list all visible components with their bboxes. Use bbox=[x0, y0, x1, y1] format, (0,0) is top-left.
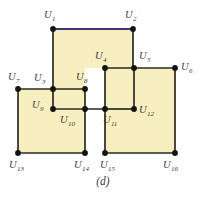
vertex-label-base: U bbox=[100, 159, 108, 170]
vertex-label-base: U bbox=[125, 9, 133, 20]
vertex-label-u8: U8 bbox=[76, 72, 87, 83]
vertex-label-base: U bbox=[95, 50, 103, 61]
vertex-dot-u8 bbox=[82, 86, 88, 92]
vertex-label-subscript: 2 bbox=[133, 15, 137, 23]
vertex-dot-u3 bbox=[50, 86, 56, 92]
vertex-dot-u6 bbox=[172, 65, 178, 71]
vertex-dot-u9 bbox=[50, 106, 56, 112]
vertex-dot-u11 bbox=[102, 106, 108, 112]
vertex-label-u3: U3 bbox=[34, 73, 45, 84]
vertex-dot-u12 bbox=[131, 106, 137, 112]
vertex-label-base: U bbox=[44, 9, 52, 20]
vertex-label-subscript: 13 bbox=[17, 165, 24, 173]
vertex-label-u16: U16 bbox=[163, 160, 178, 171]
vertex-dot-u13 bbox=[15, 150, 21, 156]
vertex-label-base: U bbox=[139, 50, 147, 61]
vertex-label-u13: U13 bbox=[9, 160, 24, 171]
vertex-dot-u15 bbox=[102, 150, 108, 156]
vertex-dot-u10 bbox=[82, 106, 88, 112]
vertex-dot-u1 bbox=[50, 26, 56, 32]
vertex-label-subscript: 1 bbox=[52, 15, 56, 23]
polygon-figure: U1U2U3U4U5U6U7U8U9U10U11U12U13U14U15U16 … bbox=[0, 0, 206, 204]
vertex-label-subscript: 14 bbox=[82, 165, 89, 173]
vertex-label-base: U bbox=[139, 104, 147, 115]
vertex-label-base: U bbox=[103, 114, 111, 125]
vertex-label-base: U bbox=[32, 99, 40, 110]
vertex-label-u12: U12 bbox=[139, 105, 154, 116]
vertex-label-u2: U2 bbox=[125, 10, 136, 21]
vertex-label-subscript: 16 bbox=[171, 165, 178, 173]
vertex-label-subscript: 6 bbox=[189, 67, 193, 75]
vertex-label-subscript: 8 bbox=[84, 77, 88, 85]
vertex-label-subscript: 12 bbox=[147, 110, 154, 118]
vertex-dot-u4 bbox=[102, 65, 108, 71]
vertex-label-subscript: 3 bbox=[42, 78, 46, 86]
vertex-label-subscript: 9 bbox=[40, 105, 44, 113]
vertex-label-u4: U4 bbox=[95, 51, 106, 62]
vertex-label-subscript: 15 bbox=[108, 165, 115, 173]
vertex-label-base: U bbox=[9, 159, 17, 170]
vertex-label-u5: U5 bbox=[139, 51, 150, 62]
vertex-label-u9: U9 bbox=[32, 100, 43, 111]
vertex-label-u6: U6 bbox=[181, 62, 192, 73]
face-middle-small-square bbox=[53, 89, 85, 109]
vertex-label-base: U bbox=[60, 114, 68, 125]
vertex-dot-u16 bbox=[172, 150, 178, 156]
figure-caption: (d) bbox=[0, 176, 206, 188]
figure-canvas bbox=[0, 0, 206, 204]
faces-group bbox=[18, 29, 175, 153]
vertex-dot-u14 bbox=[82, 150, 88, 156]
vertex-label-u14: U14 bbox=[74, 160, 89, 171]
vertex-label-base: U bbox=[76, 71, 84, 82]
vertex-label-u11: U11 bbox=[103, 115, 117, 126]
vertex-label-base: U bbox=[74, 159, 82, 170]
vertex-label-u15: U15 bbox=[100, 160, 115, 171]
vertex-label-subscript: 7 bbox=[16, 77, 20, 85]
vertex-dot-u2 bbox=[130, 26, 136, 32]
vertex-label-base: U bbox=[181, 61, 189, 72]
vertex-dot-u5 bbox=[131, 65, 137, 71]
vertex-label-subscript: 11 bbox=[111, 120, 117, 128]
vertex-label-base: U bbox=[8, 71, 16, 82]
vertex-label-base: U bbox=[163, 159, 171, 170]
vertex-label-base: U bbox=[34, 72, 42, 83]
vertex-dot-u7 bbox=[15, 86, 21, 92]
vertex-label-subscript: 4 bbox=[103, 56, 107, 64]
vertex-label-u1: U1 bbox=[44, 10, 55, 21]
vertex-label-subscript: 10 bbox=[68, 120, 75, 128]
vertex-label-u7: U7 bbox=[8, 72, 19, 83]
vertex-label-u10: U10 bbox=[60, 115, 75, 126]
vertex-label-subscript: 5 bbox=[147, 56, 151, 64]
